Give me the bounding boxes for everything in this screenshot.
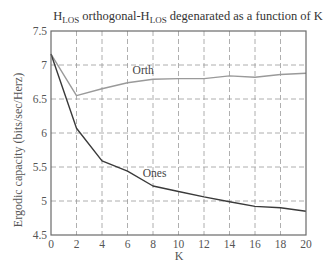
x-tick-label: 4 bbox=[99, 238, 105, 250]
y-tick-label: 6 bbox=[41, 127, 47, 139]
chart-title: HLOS orthogonal-HLOS degenarated as a fu… bbox=[53, 9, 323, 25]
x-tick-label: 2 bbox=[74, 238, 80, 250]
x-tick-label: 12 bbox=[198, 238, 210, 250]
x-tick-label: 16 bbox=[249, 238, 261, 250]
x-tick-label: 6 bbox=[125, 238, 131, 250]
series-label-ones: Ones bbox=[143, 167, 167, 179]
y-axis-label: Ergodic capacity (bits/sec/Herz) bbox=[11, 73, 25, 227]
y-tick-label: 7 bbox=[41, 59, 47, 71]
x-tick-label: 20 bbox=[300, 238, 312, 250]
x-tick-label: 0 bbox=[48, 238, 54, 250]
y-tick-label: 4.5 bbox=[33, 229, 48, 241]
x-tick-label: 14 bbox=[224, 238, 236, 250]
y-axis-ticks: 4.555.566.577.5 bbox=[33, 25, 48, 241]
x-axis-label: K bbox=[175, 249, 184, 263]
x-tick-label: 8 bbox=[150, 238, 156, 250]
y-tick-label: 7.5 bbox=[33, 25, 48, 37]
chart: HLOS orthogonal-HLOS degenarated as a fu… bbox=[0, 0, 325, 278]
y-tick-label: 5.5 bbox=[33, 161, 48, 173]
series-label-orth: Orth bbox=[133, 64, 154, 76]
y-tick-label: 6.5 bbox=[33, 93, 48, 105]
y-tick-label: 5 bbox=[41, 195, 47, 207]
x-tick-label: 18 bbox=[275, 238, 287, 250]
grid-lines bbox=[51, 31, 306, 235]
